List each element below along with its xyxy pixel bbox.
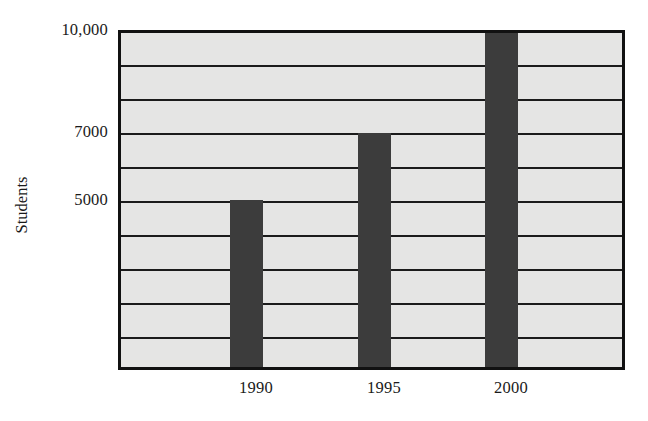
y-axis-tick-labels: 10,000 7000 5000 [0,0,118,421]
x-tick-label-1990: 1990 [239,378,273,398]
x-tick-label-2000: 2000 [494,378,528,398]
x-tick-label-1995: 1995 [367,378,401,398]
bars-layer [121,33,622,367]
plot-area [118,30,625,370]
bar-1995 [358,133,391,367]
y-tick-label-5000: 5000 [74,190,108,210]
y-tick-label-10000: 10,000 [61,20,108,40]
bar-chart-figure: Students 10,000 7000 5000 1990 1995 2000 [0,0,648,421]
y-tick-label-7000: 7000 [74,122,108,142]
x-axis-tick-labels: 1990 1995 2000 [118,378,625,406]
bar-2000 [485,33,518,367]
bar-1990 [230,200,263,367]
